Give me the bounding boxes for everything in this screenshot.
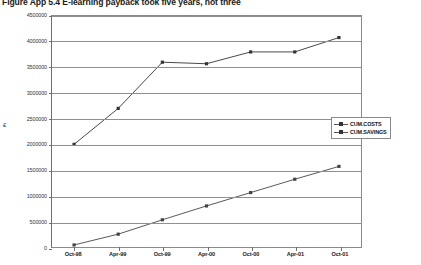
y-tick-mark (49, 223, 52, 224)
legend-item-cum-costs[interactable]: CUM.COSTS (334, 120, 387, 128)
gridline (52, 145, 361, 146)
y-tick-label: 2000000 (27, 141, 47, 147)
y-tick-mark (49, 171, 52, 172)
x-tick-label: Oct-01 (331, 251, 348, 257)
legend-label-cum-costs: CUM.COSTS (350, 121, 381, 127)
x-tick-label: Apr-99 (109, 251, 126, 257)
gridline (52, 41, 361, 42)
gridline (52, 171, 361, 172)
data-point (293, 178, 296, 181)
legend-item-cum-savings[interactable]: CUM.SAVINGS (334, 128, 387, 136)
gridline (52, 16, 361, 17)
y-tick-mark (49, 41, 52, 42)
y-tick-label: 3000000 (27, 90, 47, 96)
x-tick-label: Oct-99 (154, 251, 171, 257)
data-point (117, 107, 120, 110)
y-tick-label: 4500000 (27, 12, 47, 18)
data-point (161, 61, 164, 64)
y-tick-mark (49, 67, 52, 68)
gridline (52, 223, 361, 224)
gridline (52, 197, 361, 198)
y-tick-label: 1500000 (27, 167, 47, 173)
data-point (249, 191, 252, 194)
y-tick-label: 1000000 (27, 193, 47, 199)
chart-legend: CUM.COSTS CUM.SAVINGS (331, 117, 391, 139)
y-tick-label: 500000 (30, 219, 47, 225)
data-point (337, 36, 340, 39)
figure-title: Figure App 5.4 E-learning payback took f… (2, 0, 241, 7)
chart-plot-area (51, 15, 362, 248)
gridline (52, 93, 361, 94)
series-plot (52, 16, 361, 247)
data-point (161, 218, 164, 221)
x-tick-label: Apr-00 (198, 251, 215, 257)
legend-marker-icon-cum-savings (334, 129, 348, 136)
legend-label-cum-savings: CUM.SAVINGS (350, 129, 387, 135)
gridline (52, 119, 361, 120)
data-point (249, 50, 252, 53)
x-tick-label: Apr-01 (287, 251, 304, 257)
y-tick-mark (49, 93, 52, 94)
gridline (52, 67, 361, 68)
data-point (337, 165, 340, 168)
y-tick-mark (49, 197, 52, 198)
x-tick-label: Oct-00 (243, 251, 260, 257)
series-line-cum-savings (74, 38, 339, 145)
legend-marker-icon-cum-costs (334, 121, 348, 128)
y-tick-label: 0 (44, 245, 47, 251)
data-point (293, 50, 296, 53)
y-axis-title: £ (3, 122, 6, 128)
y-tick-mark (49, 249, 52, 250)
y-tick-label: 2500000 (27, 116, 47, 122)
x-tick-label: Oct-98 (65, 251, 82, 257)
y-tick-mark (49, 119, 52, 120)
data-point (117, 233, 120, 236)
y-tick-mark (49, 16, 52, 17)
y-tick-label: 3500000 (27, 64, 47, 70)
data-point (205, 62, 208, 65)
y-tick-label: 4000000 (27, 38, 47, 44)
data-point (205, 204, 208, 207)
y-tick-mark (49, 145, 52, 146)
